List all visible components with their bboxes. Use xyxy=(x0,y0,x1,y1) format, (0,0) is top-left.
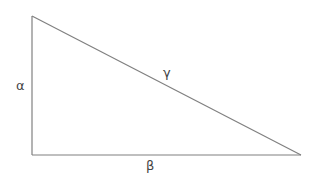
label-beta: β xyxy=(146,159,154,172)
side-gamma xyxy=(32,16,301,155)
label-alpha: α xyxy=(16,79,25,92)
label-gamma: γ xyxy=(163,66,171,79)
triangle-diagram xyxy=(0,0,318,183)
